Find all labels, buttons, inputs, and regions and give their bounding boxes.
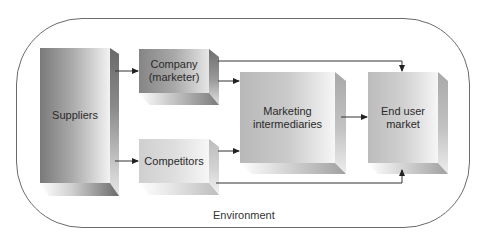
connector-layer — [0, 0, 485, 242]
arrow-company-to-end-user — [218, 61, 402, 71]
arrow-competitors-to-end-user — [216, 170, 402, 183]
